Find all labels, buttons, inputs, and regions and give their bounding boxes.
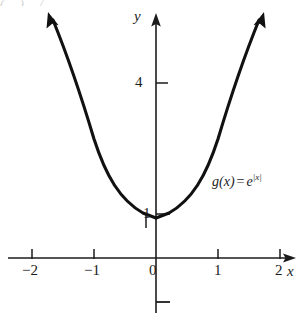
x-axis-label: x — [287, 264, 294, 279]
curve-equation-function: g(x) — [212, 174, 235, 189]
y-tick-label-1: 1 — [143, 206, 151, 221]
x-tick-label-neg1: −1 — [84, 263, 100, 278]
function-graph-figure: ( ) / — [0, 0, 303, 321]
y-tick-label-4: 4 — [135, 75, 143, 90]
x-tick-label-pos1: 1 — [214, 263, 222, 278]
curve-equation-label: g(x)=e|x| — [212, 175, 262, 189]
x-tick-label-zero: 0 — [149, 263, 157, 278]
x-tick-label-pos2: 2 — [275, 263, 283, 278]
curve-equation-exponent: |x| — [253, 172, 262, 182]
curve-equation-equals: = — [235, 174, 247, 189]
y-axis-label: y — [134, 9, 141, 24]
x-tick-label-neg2: −2 — [22, 263, 38, 278]
